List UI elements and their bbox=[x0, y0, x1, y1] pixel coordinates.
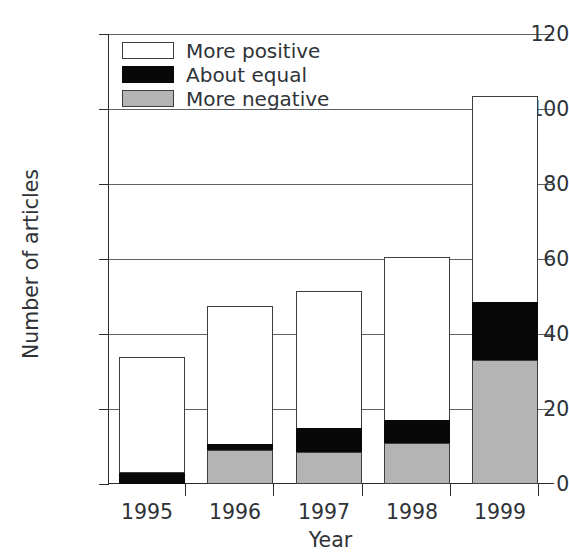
bar-group-1999[interactable] bbox=[472, 96, 538, 484]
legend-label-more-positive: More positive bbox=[186, 41, 320, 61]
x-tick-label-1995: 1995 bbox=[108, 500, 186, 524]
bar-segment-more-positive[interactable] bbox=[384, 257, 450, 421]
legend-item-about-equal[interactable]: About equal bbox=[122, 63, 358, 86]
bar-segment-more-negative[interactable] bbox=[296, 452, 362, 484]
y-tick-40 bbox=[99, 334, 109, 335]
bar-segment-about-equal[interactable] bbox=[384, 420, 450, 443]
bar-segment-more-negative[interactable] bbox=[207, 450, 273, 484]
clipped-caption bbox=[0, 0, 569, 9]
bar-segment-about-equal[interactable] bbox=[472, 302, 538, 360]
legend: More positive About equal More negative bbox=[122, 39, 358, 111]
bar-segment-more-positive[interactable] bbox=[207, 306, 273, 446]
x-tick-1 bbox=[185, 484, 186, 496]
bar-group-1997[interactable] bbox=[296, 291, 362, 484]
x-tick-label-1996: 1996 bbox=[196, 500, 274, 524]
legend-item-more-positive[interactable]: More positive bbox=[122, 39, 358, 62]
y-tick-120 bbox=[99, 34, 109, 35]
x-axis-title: Year bbox=[108, 528, 553, 552]
bar-group-1998[interactable] bbox=[384, 257, 450, 484]
legend-label-more-negative: More negative bbox=[186, 89, 329, 109]
legend-swatch-about-equal-icon bbox=[122, 66, 174, 83]
bar-segment-about-equal[interactable] bbox=[119, 473, 185, 484]
y-tick-80 bbox=[99, 184, 109, 185]
x-tick-label-1999: 1999 bbox=[461, 500, 539, 524]
bar-segment-more-positive[interactable] bbox=[119, 357, 185, 473]
y-tick-label-120: 120 bbox=[473, 24, 569, 45]
x-tick-label-1998: 1998 bbox=[373, 500, 451, 524]
bar-group-1996[interactable] bbox=[207, 306, 273, 484]
x-tick-5 bbox=[538, 484, 539, 496]
x-tick-4 bbox=[450, 484, 451, 496]
legend-label-about-equal: About equal bbox=[186, 65, 307, 85]
bar-segment-more-positive[interactable] bbox=[472, 96, 538, 303]
legend-swatch-more-positive-icon bbox=[122, 42, 174, 59]
legend-swatch-more-negative-icon bbox=[122, 90, 174, 107]
legend-item-more-negative[interactable]: More negative bbox=[122, 87, 358, 110]
y-tick-20 bbox=[99, 409, 109, 410]
bar-segment-more-positive[interactable] bbox=[296, 291, 362, 429]
y-tick-60 bbox=[99, 259, 109, 260]
x-tick-3 bbox=[362, 484, 363, 496]
bar-segment-more-negative[interactable] bbox=[384, 443, 450, 484]
bar-segment-more-negative[interactable] bbox=[472, 360, 538, 484]
y-axis-title: Number of articles bbox=[19, 114, 43, 414]
y-tick-100 bbox=[99, 109, 109, 110]
y-tick-0 bbox=[99, 484, 109, 485]
bar-group-1995[interactable] bbox=[119, 357, 185, 484]
bar-segment-about-equal[interactable] bbox=[296, 428, 362, 452]
x-tick-label-1997: 1997 bbox=[285, 500, 363, 524]
x-tick-2 bbox=[273, 484, 274, 496]
chart-figure: 120 100 80 60 40 20 0 Number of articles… bbox=[0, 0, 569, 557]
